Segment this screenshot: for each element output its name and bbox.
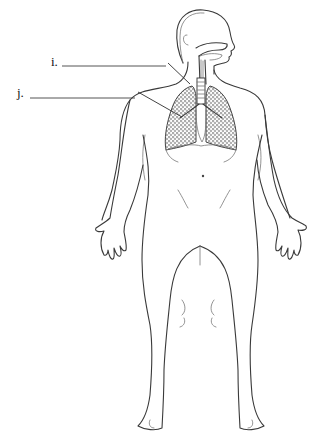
respiratory-diagram: i. j. [0,0,312,443]
body-outline [0,0,312,443]
left-arm [96,100,143,259]
leader-line-i [168,63,190,84]
navel [202,175,204,177]
right-arm [257,115,306,259]
